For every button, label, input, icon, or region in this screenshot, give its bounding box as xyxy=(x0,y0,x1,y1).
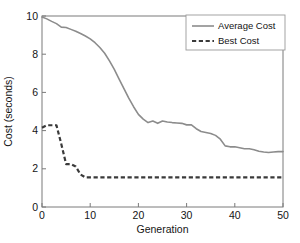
legend-label-average-cost: Average Cost xyxy=(218,20,276,31)
y-axis-label: Cost (seconds) xyxy=(2,76,14,147)
y-tick-label: 2 xyxy=(32,162,38,174)
y-tick-label: 10 xyxy=(26,10,38,22)
cost-vs-generation-chart: 0246810 01020304050 Generation Cost (sec… xyxy=(0,0,300,243)
y-tick-label: 8 xyxy=(32,48,38,60)
chart-figure: 0246810 01020304050 Generation Cost (sec… xyxy=(0,0,300,243)
y-tick-label: 6 xyxy=(32,86,38,98)
y-tick-label: 4 xyxy=(32,124,38,136)
x-tick-label: 40 xyxy=(229,209,241,221)
x-axis-label: Generation xyxy=(137,223,189,235)
x-tick-label: 0 xyxy=(39,209,45,221)
chart-legend: Average CostBest Cost xyxy=(186,15,285,50)
x-axis-ticks: 01020304050 xyxy=(39,203,289,221)
legend-label-best-cost: Best Cost xyxy=(218,35,260,46)
x-tick-label: 50 xyxy=(277,209,289,221)
series-line-best-cost xyxy=(42,125,283,177)
x-tick-label: 30 xyxy=(181,209,193,221)
y-tick-label: 0 xyxy=(32,201,38,213)
y-axis-ticks: 0246810 xyxy=(26,10,46,213)
x-tick-label: 20 xyxy=(133,209,145,221)
x-tick-label: 10 xyxy=(84,209,96,221)
